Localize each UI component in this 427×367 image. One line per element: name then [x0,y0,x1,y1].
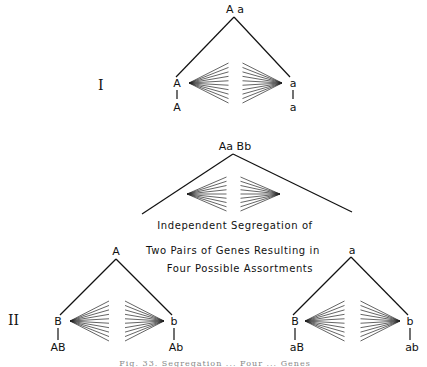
figure-caption: Fig. 33. Segregation ... Four ... Genes [119,359,311,367]
spindle-fiber [241,194,281,203]
part2-result-Ab: Ab [169,341,184,354]
part1-spindle-icon [189,63,282,103]
part2-left-sub-right-allele: b [171,315,178,328]
part1-left-branch-line [176,17,234,77]
part2-left-spindle-icon [70,301,164,341]
spindle-fiber [187,194,227,203]
part2-right-sub-left-allele: B [291,315,299,328]
spindle-fiber [125,321,164,337]
caption-line-2: Two Pairs of Genes Resulting in [145,245,320,256]
spindle-fiber [243,67,283,83]
spindle-fiber [243,83,283,99]
part1-right-result: a [290,101,297,114]
part2-right-allele: a [349,244,356,257]
part2-parent-genotype: Aa Bb [219,140,251,153]
part2-result-AB: AB [50,341,65,354]
part1-left-result: A [173,101,181,114]
spindle-fiber [125,305,164,321]
part2-result-ab: ab [405,341,419,354]
spindle-fiber [189,67,229,83]
spindle-fiber [70,305,109,321]
segregation-diagram: I A a A A a a Aa Bb Independent Segregat… [0,0,427,367]
part2-left-branch-line [142,154,233,214]
part2-left-sub-left-line [60,259,116,315]
part2-numeral: II [8,312,19,328]
spindle-fiber [241,177,281,194]
spindle-fiber [70,321,109,337]
part2-left-sub-left-allele: B [54,315,62,328]
spindle-fiber [241,186,281,195]
part2-left-allele: A [112,245,120,258]
part2-left-sub-right-line [116,259,172,315]
spindle-fiber [361,305,401,321]
part1-parent-genotype: A a [226,3,244,16]
caption-line-1: Independent Segregation of [157,220,313,231]
part1-numeral: I [98,77,104,93]
part1-right-branch-line [234,17,290,77]
spindle-fiber [189,83,229,99]
part2-spindle-icon [187,177,280,211]
spindle-fiber [187,177,227,194]
spindle-fiber [305,321,345,337]
spindle-fiber [361,321,401,337]
spindle-fiber [241,194,281,211]
part2-result-aB: aB [290,341,304,354]
part1-right-allele: a [290,77,297,90]
spindle-fiber [187,194,227,211]
part2-right-sub-right-line [351,257,408,315]
part2-right-sub-right-allele: b [407,315,414,328]
part1-left-allele: A [173,77,181,90]
spindle-fiber [187,186,227,195]
part2-right-spindle-icon [305,301,400,341]
spindle-fiber [305,305,345,321]
caption-line-3: Four Possible Assortments [167,263,313,274]
